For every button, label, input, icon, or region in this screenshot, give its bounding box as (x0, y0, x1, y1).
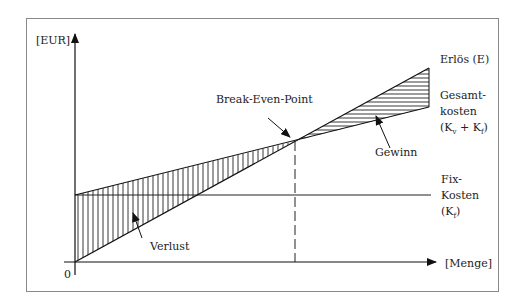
x-axis-label: [Menge] (445, 257, 492, 270)
gain-label: Gewinn (375, 146, 417, 159)
total-cost-label-line2: kosten (440, 105, 477, 118)
fixed-cost-label-line1: Fix- (441, 173, 462, 186)
break-even-chart: [EUR] [Menge] 0 Erlös (E) Gesamt- kosten… (0, 0, 519, 307)
loss-label: Verlust (149, 240, 190, 253)
fixed-cost-label-line2: Kosten (441, 189, 479, 202)
gain-arrow-icon (376, 116, 390, 148)
break-even-label: Break-Even-Point (216, 93, 313, 106)
total-cost-label-line1: Gesamt- (440, 89, 486, 102)
chart-frame (27, 19, 499, 292)
fixed-cost-label-line3: (Kf) (441, 205, 460, 220)
revenue-label: Erlös (E) (440, 53, 489, 66)
total-cost-label-line3: (Kv + Kf) (440, 121, 488, 136)
origin-label: 0 (64, 268, 71, 281)
break-even-arrow-icon (268, 118, 290, 137)
y-axis-label: [EUR] (36, 34, 70, 47)
